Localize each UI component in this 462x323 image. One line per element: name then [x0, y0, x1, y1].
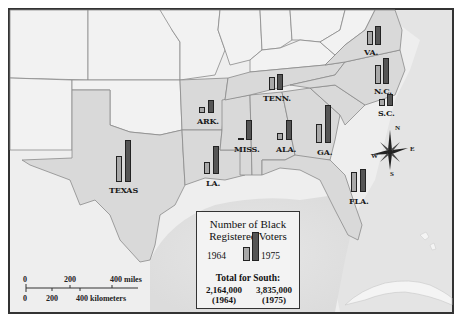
compass-east-label: E [410, 145, 415, 153]
legend-total-1975: 3,835,000 (1975) [249, 285, 299, 305]
state-label-la: LA. [206, 178, 220, 188]
bar-la-1964 [204, 162, 210, 174]
bar-va-1975 [375, 26, 381, 45]
state-label-va: VA. [364, 47, 378, 57]
bar-ala-1975 [286, 120, 292, 140]
legend-box: Number of Black Registered Voters 1964 1… [196, 211, 300, 309]
bar-sc-1975 [387, 94, 393, 106]
legend-bar-1975 [252, 232, 259, 261]
bar-tenn-1964 [269, 77, 275, 90]
bar-sc-1964 [379, 99, 385, 106]
scale-miles-0: 0 [23, 275, 27, 284]
legend-year-1975: 1975 [261, 251, 280, 261]
legend-bar-1964 [243, 247, 250, 261]
legend-total-1975-value: 3,835,000 [249, 285, 299, 295]
state-new-mexico [10, 78, 72, 150]
legend-title-line2: Registered Voters [197, 230, 299, 242]
bar-texas-1964 [116, 156, 122, 182]
legend-total-1975-year: (1975) [249, 295, 299, 305]
state-label-miss: MISS. [234, 144, 259, 154]
state-label-tenn: TENN. [263, 93, 291, 103]
legend-title-line1: Number of Black [197, 218, 299, 230]
scale-km-200: 200 [46, 294, 58, 303]
bar-ala-1964 [277, 133, 283, 140]
state-label-ala: ALA. [276, 144, 296, 154]
state-label-ga: GA. [317, 147, 332, 157]
bar-nc-1975 [383, 58, 389, 84]
bar-ark-1975 [208, 100, 214, 113]
bar-fla-1975 [360, 169, 366, 192]
bar-texas-1975 [125, 140, 131, 182]
scale-km-400: 400 kilometers [76, 294, 126, 303]
bar-miss-1964 [238, 138, 244, 140]
state-colorado [10, 10, 88, 80]
compass-west-label: W [371, 152, 378, 160]
compass-south-label: S [390, 170, 394, 178]
legend-total-label: Total for South: [197, 273, 299, 283]
bar-nc-1964 [375, 65, 381, 84]
bar-fla-1964 [351, 172, 357, 192]
bar-ga-1964 [316, 124, 322, 143]
legend-total-1964: 2,164,000 (1964) [199, 285, 249, 305]
bar-ga-1975 [325, 105, 331, 143]
bar-ark-1964 [199, 107, 205, 113]
state-label-ark: ARK. [197, 116, 219, 126]
bar-la-1975 [213, 146, 219, 174]
bar-miss-1975 [246, 120, 252, 140]
legend-year-1964: 1964 [207, 251, 226, 261]
state-label-fla: FLA. [349, 196, 369, 206]
state-label-texas: TEXAS [109, 185, 138, 195]
scale-miles-200: 200 [64, 275, 76, 284]
bar-va-1964 [367, 31, 373, 45]
compass-north-label: N [395, 124, 400, 132]
scale-miles-400: 400 miles [110, 275, 142, 284]
legend-total-1964-year: (1964) [199, 295, 249, 305]
scale-km-0: 0 [23, 294, 27, 303]
state-label-sc: S.C. [378, 108, 395, 118]
legend-total-1964-value: 2,164,000 [199, 285, 249, 295]
bar-tenn-1975 [277, 74, 283, 90]
